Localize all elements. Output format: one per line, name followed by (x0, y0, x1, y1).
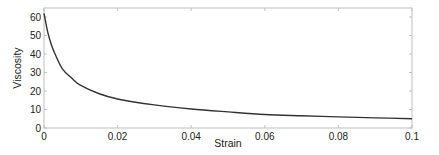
y-tick-label: 50 (30, 30, 42, 41)
x-tick-label: 0.06 (255, 131, 275, 142)
y-axis-label: Viscosity (11, 47, 23, 89)
viscosity-curve (44, 13, 412, 118)
x-tick-label: 0.02 (108, 131, 128, 142)
y-tick-label: 10 (30, 104, 42, 115)
x-axis-label: Strain (214, 137, 242, 149)
x-tick-label: 0.1 (405, 131, 419, 142)
y-ticks: 0102030405060 (30, 12, 412, 134)
x-tick-label: 0.04 (181, 131, 201, 142)
y-tick-label: 30 (30, 67, 42, 78)
y-tick-label: 0 (35, 123, 41, 134)
x-tick-label: 0 (41, 131, 47, 142)
x-ticks: 00.020.040.060.080.1 (41, 8, 419, 142)
axes-frame (44, 8, 412, 128)
y-tick-label: 60 (30, 12, 42, 23)
x-tick-label: 0.08 (329, 131, 349, 142)
y-tick-label: 20 (30, 86, 42, 97)
y-tick-label: 40 (30, 49, 42, 60)
viscosity-strain-chart: 00.020.040.060.080.1 0102030405060 Strai… (0, 0, 439, 155)
